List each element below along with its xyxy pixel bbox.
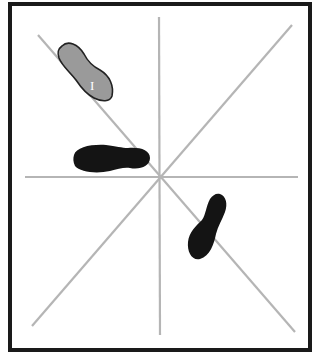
black-diagonal-footprint-shape [188,194,227,260]
gray-footprint-shape: I [58,43,113,101]
diagram-canvas: I [0,0,317,358]
shape-label: I [90,78,94,93]
black-horizontal-footprint-shape [73,145,150,173]
